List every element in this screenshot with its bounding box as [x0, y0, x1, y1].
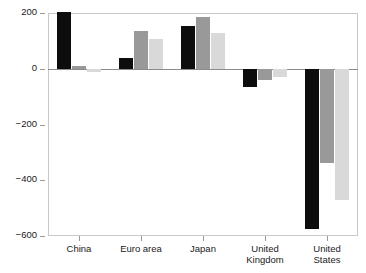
bar	[211, 33, 226, 69]
y-tick-mark	[40, 236, 45, 237]
y-tick-label: 200	[21, 6, 37, 17]
x-tick-mark	[203, 236, 204, 241]
bar	[196, 17, 211, 69]
y-tick-label: 0	[32, 62, 37, 73]
y-tick-mark	[40, 69, 45, 70]
y-tick-label: −600	[16, 229, 37, 240]
x-tick-mark	[327, 236, 328, 241]
bar	[243, 69, 258, 87]
bar	[134, 31, 149, 69]
bar	[87, 69, 102, 72]
x-tick-mark	[265, 236, 266, 241]
bar	[305, 69, 320, 229]
bar	[181, 26, 196, 68]
x-tick-label: United States	[291, 243, 363, 265]
x-tick-mark	[79, 236, 80, 241]
y-tick-label: −400	[16, 173, 37, 184]
bar	[335, 69, 350, 200]
bar	[72, 66, 87, 69]
bar	[320, 69, 335, 163]
bar	[57, 12, 72, 69]
cropped-title-sliver	[8, 0, 308, 7]
bars-layer	[48, 13, 358, 236]
bar-chart: 2000−200−400−600 ChinaEuro areaJapanUnit…	[0, 0, 366, 273]
bar	[119, 58, 134, 69]
bar	[149, 39, 164, 68]
y-tick-label: −200	[16, 118, 37, 129]
y-tick-mark	[40, 180, 45, 181]
y-tick-mark	[40, 125, 45, 126]
y-tick-mark	[40, 13, 45, 14]
x-tick-mark	[141, 236, 142, 241]
bar	[273, 69, 288, 77]
bar	[258, 69, 273, 80]
